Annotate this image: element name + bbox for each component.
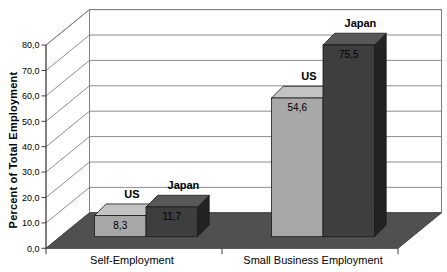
category-label-small-business-employment: Small Business Employment (243, 254, 382, 266)
series-label-japan-self-employment: Japan (168, 179, 200, 191)
bar-top-japan-small-business-employment (323, 33, 386, 45)
y-tick-label: 30,0 (22, 167, 40, 177)
y-tick-label: 40,0 (22, 142, 40, 152)
value-label-japan-self-employment: 11,7 (162, 211, 181, 222)
bar-chart-svg: 0,010,020,030,040,050,060,070,080,08,3US… (0, 0, 447, 272)
y-axis-title: Percent of Total Employment (7, 72, 19, 229)
series-label-us-small-business-employment: US (301, 70, 316, 82)
value-label-us-self-employment: 8,3 (113, 220, 127, 231)
series-label-us-self-employment: US (124, 188, 139, 200)
series-label-japan-small-business-employment: Japan (345, 17, 377, 29)
y-tick-label: 70,0 (22, 66, 40, 76)
bar-front-japan-small-business-employment (323, 45, 375, 237)
y-tick-label: 0,0 (27, 244, 40, 254)
y-tick-label: 80,0 (22, 40, 40, 50)
bar-front-us-small-business-employment (272, 98, 324, 237)
value-label-japan-small-business-employment: 75,5 (339, 49, 359, 60)
category-label-self-employment: Self-Employment (90, 254, 174, 266)
y-tick-label: 60,0 (22, 91, 40, 101)
bar-top-japan-self-employment (146, 195, 209, 207)
y-tick-label: 10,0 (22, 218, 40, 228)
chart: 0,010,020,030,040,050,060,070,080,08,3US… (0, 0, 447, 272)
y-tick-label: 20,0 (22, 193, 40, 203)
value-label-us-small-business-employment: 54,6 (288, 102, 308, 113)
bar-side-japan-small-business-employment (375, 33, 387, 236)
y-tick-label: 50,0 (22, 117, 40, 127)
